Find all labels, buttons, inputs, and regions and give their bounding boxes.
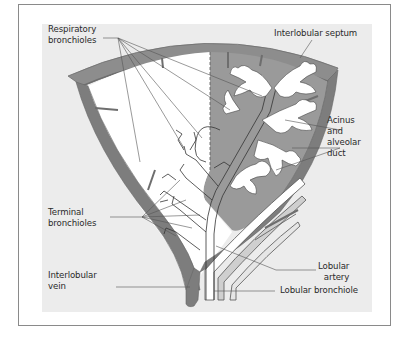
label-interlobular-vein: Interlobular vein bbox=[48, 270, 97, 292]
label-interlobular-septum: Interlobular septum bbox=[274, 28, 357, 39]
label-respiratory-bronchioles: Respiratory bronchioles bbox=[48, 24, 96, 46]
label-lobular-bronchiole: Lobular bronchiole bbox=[280, 285, 358, 296]
label-lobular-artery: Lobular artery bbox=[318, 261, 349, 283]
label-acinus-alveolar-duct: Acinus and alveolar duct bbox=[327, 115, 361, 159]
label-terminal-bronchioles: Terminal bronchioles bbox=[48, 207, 96, 229]
